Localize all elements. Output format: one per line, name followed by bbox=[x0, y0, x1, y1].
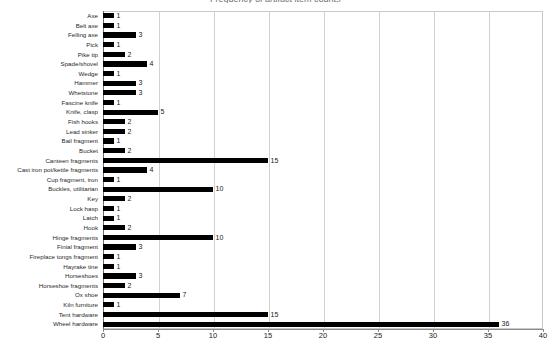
bar-row: Horseshoes3 bbox=[0, 271, 551, 281]
x-tick-mark bbox=[103, 329, 104, 332]
bar-row: Fish hooks2 bbox=[0, 117, 551, 127]
bar-row: Latch1 bbox=[0, 213, 551, 223]
bar-value-label: 2 bbox=[128, 281, 132, 291]
x-tick-mark bbox=[158, 329, 159, 332]
x-axis-ticks: 0510152025303540 bbox=[0, 331, 551, 345]
category-label: Bucket bbox=[79, 146, 98, 156]
bar bbox=[103, 13, 114, 18]
bar-row: Buckles, utilitarian10 bbox=[0, 184, 551, 194]
bar-value-label: 1 bbox=[117, 252, 121, 262]
bar-value-label: 2 bbox=[128, 127, 132, 137]
category-label: Horseshoe fragments bbox=[39, 281, 98, 291]
bar-value-label: 2 bbox=[128, 50, 132, 60]
bar-row: Spade/shovel4 bbox=[0, 59, 551, 69]
bar-row: Lock hasp1 bbox=[0, 204, 551, 214]
x-tick-mark bbox=[323, 329, 324, 332]
bar bbox=[103, 71, 114, 76]
bar bbox=[103, 100, 114, 105]
bar bbox=[103, 283, 125, 288]
x-tick-label: 40 bbox=[523, 331, 551, 340]
bar bbox=[103, 138, 114, 143]
bar-row: Fascine knife1 bbox=[0, 98, 551, 108]
category-label: Hayrake tine bbox=[63, 262, 98, 272]
bar-value-label: 15 bbox=[271, 156, 279, 166]
bar-row: Tent hardware15 bbox=[0, 310, 551, 320]
bar-value-label: 3 bbox=[139, 88, 143, 98]
bar-value-label: 1 bbox=[117, 175, 121, 185]
x-tick-mark bbox=[378, 329, 379, 332]
bar-row: Knife, clasp5 bbox=[0, 107, 551, 117]
bar-row: Pick1 bbox=[0, 40, 551, 50]
bar-value-label: 1 bbox=[117, 136, 121, 146]
bar-row: Hayrake tine1 bbox=[0, 262, 551, 272]
x-tick-label: 25 bbox=[358, 331, 398, 340]
category-label: Felling axe bbox=[68, 30, 98, 40]
category-label: Belt axe bbox=[76, 21, 98, 31]
bar-row: Finial fragment3 bbox=[0, 242, 551, 252]
bar-row: Canteen fragments15 bbox=[0, 156, 551, 166]
bar-row: Key2 bbox=[0, 194, 551, 204]
bar bbox=[103, 42, 114, 47]
bar bbox=[103, 177, 114, 182]
bar-value-label: 36 bbox=[502, 319, 510, 329]
category-label: Pick bbox=[86, 40, 98, 50]
bar-rows: Axe1Belt axe1Felling axe3Pick1Pike tip2S… bbox=[0, 11, 551, 329]
x-tick-label: 5 bbox=[138, 331, 178, 340]
bar-row: Wheel hardware36 bbox=[0, 319, 551, 329]
x-tick-mark bbox=[543, 329, 544, 332]
category-label: Buckles, utilitarian bbox=[48, 184, 98, 194]
x-tick-mark bbox=[433, 329, 434, 332]
x-tick-mark bbox=[268, 329, 269, 332]
bar bbox=[103, 216, 114, 221]
x-tick-label: 30 bbox=[413, 331, 453, 340]
category-label: Tent hardware bbox=[59, 310, 98, 320]
bar-value-label: 7 bbox=[183, 290, 187, 300]
bar bbox=[103, 235, 213, 240]
bar bbox=[103, 81, 136, 86]
bar-row: Hook2 bbox=[0, 223, 551, 233]
bar-value-label: 2 bbox=[128, 146, 132, 156]
category-label: Knife, clasp bbox=[66, 107, 98, 117]
bar-chart: Frequency of artifact item counts Axe1Be… bbox=[0, 0, 551, 358]
category-label: Fascine knife bbox=[62, 98, 98, 108]
bar-row: Whetstone3 bbox=[0, 88, 551, 98]
bar bbox=[103, 61, 147, 66]
bar-row: Ox shoe7 bbox=[0, 290, 551, 300]
bar bbox=[103, 90, 136, 95]
bar bbox=[103, 187, 213, 192]
bar-value-label: 1 bbox=[117, 11, 121, 21]
bar-value-label: 10 bbox=[216, 233, 224, 243]
category-label: Kiln furniture bbox=[63, 300, 98, 310]
bar-value-label: 1 bbox=[117, 40, 121, 50]
bar-value-label: 4 bbox=[150, 59, 154, 69]
bar bbox=[103, 264, 114, 269]
x-tick-mark bbox=[488, 329, 489, 332]
category-label: Hammer bbox=[74, 78, 98, 88]
category-label: Hinge fragments bbox=[53, 233, 98, 243]
bar-value-label: 5 bbox=[161, 107, 165, 117]
bar bbox=[103, 225, 125, 230]
bar bbox=[103, 167, 147, 172]
bar-value-label: 1 bbox=[117, 204, 121, 214]
bar-value-label: 3 bbox=[139, 30, 143, 40]
bar bbox=[103, 32, 136, 37]
bar bbox=[103, 129, 125, 134]
x-tick-label: 20 bbox=[303, 331, 343, 340]
category-label: Canteen fragments bbox=[45, 156, 98, 166]
bar-row: Axe1 bbox=[0, 11, 551, 21]
bar-value-label: 15 bbox=[271, 310, 279, 320]
category-label: Key bbox=[87, 194, 98, 204]
bar bbox=[103, 293, 180, 298]
category-label: Ox shoe bbox=[75, 290, 98, 300]
bar-row: Belt axe1 bbox=[0, 21, 551, 31]
bar-row: Pike tip2 bbox=[0, 50, 551, 60]
bar bbox=[103, 273, 136, 278]
bar bbox=[103, 23, 114, 28]
category-label: Pike tip bbox=[78, 50, 98, 60]
bar-row: Bail fragment1 bbox=[0, 136, 551, 146]
bar-row: Fireplace tongs fragment1 bbox=[0, 252, 551, 262]
bar bbox=[103, 244, 136, 249]
bar-row: Wedge1 bbox=[0, 69, 551, 79]
bar bbox=[103, 206, 114, 211]
x-tick-label: 35 bbox=[468, 331, 508, 340]
